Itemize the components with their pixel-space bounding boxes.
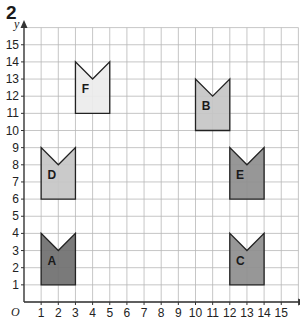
shape-label: A: [47, 254, 56, 268]
y-tick-label: 8: [12, 158, 19, 172]
shapes-layer: ABCDEF: [41, 62, 264, 285]
x-tick-label: 1: [38, 306, 45, 320]
x-tick-label: 10: [189, 306, 203, 320]
y-tick-label: 3: [12, 244, 19, 258]
x-tick-label: 12: [223, 306, 237, 320]
y-tick-label: 10: [6, 124, 20, 138]
y-tick-label: 12: [6, 89, 20, 103]
x-tick-label: 5: [106, 306, 113, 320]
y-tick-label: 2: [12, 261, 19, 275]
y-tick-label: 11: [7, 106, 20, 120]
y-tick-label: 13: [6, 72, 20, 86]
shape-label: E: [236, 168, 244, 182]
coordinate-grid: ABCDEF 123456789101112131415123456789101…: [0, 0, 300, 334]
x-tick-label: 7: [141, 306, 148, 320]
x-tick-label: 8: [158, 306, 165, 320]
x-tick-label: 6: [124, 306, 131, 320]
shape-label: F: [82, 82, 89, 96]
x-axis-arrow-icon: [298, 299, 300, 306]
shape-label: D: [47, 168, 56, 182]
x-tick-label: 13: [240, 306, 254, 320]
origin-label: O: [11, 305, 20, 319]
x-tick-label: 11: [206, 306, 219, 320]
y-tick-label: 9: [12, 141, 19, 155]
y-tick-label: 4: [12, 226, 19, 240]
y-tick-label: 5: [12, 209, 19, 223]
y-tick-label: 1: [12, 278, 19, 292]
y-tick-label: 7: [12, 175, 19, 189]
x-tick-label: 15: [275, 306, 289, 320]
y-axis-arrow-icon: [21, 20, 28, 28]
y-tick-label: 14: [6, 55, 20, 69]
y-axis-label: y: [13, 17, 20, 31]
x-tick-label: 2: [55, 306, 62, 320]
shape-label: B: [202, 99, 211, 113]
y-tick-label: 15: [6, 38, 20, 52]
y-tick-label: 6: [12, 192, 19, 206]
shape-label: C: [236, 254, 245, 268]
x-tick-label: 3: [72, 306, 79, 320]
x-tick-label: 4: [89, 306, 96, 320]
x-tick-label: 9: [175, 306, 182, 320]
x-tick-label: 14: [257, 306, 271, 320]
